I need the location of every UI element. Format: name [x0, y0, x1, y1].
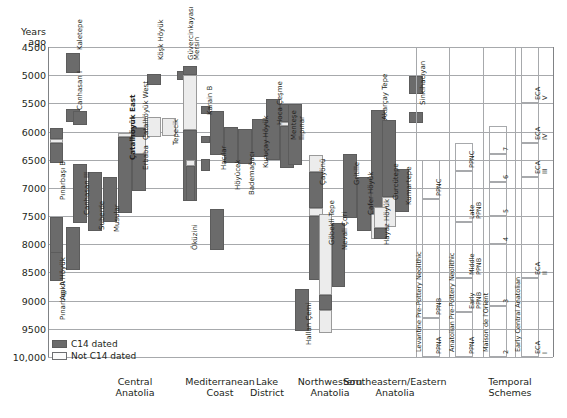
site-label: Suberde — [99, 201, 106, 230]
gridline — [48, 244, 553, 245]
site-bar-segment — [186, 160, 195, 167]
site-label: Pınarbaşı B — [60, 161, 67, 200]
plot-right-border — [553, 47, 554, 357]
site-label: Öküzini — [192, 224, 199, 250]
site-bar-segment — [73, 111, 87, 125]
region-label: CentralAnatolia — [90, 376, 180, 398]
site-label: Erbaba — [143, 145, 150, 170]
region-label-line2: Coast — [207, 387, 234, 398]
site-label: Musular — [114, 204, 121, 232]
site-label: Kaletepe — [77, 19, 84, 50]
site-label: Çayönü — [320, 159, 327, 185]
scheme-phase-label: ECA III — [535, 161, 549, 174]
chronology-chart: Years ago 450050005500600065007000750080… — [0, 0, 567, 418]
region-label-line2: Anatolia — [376, 387, 415, 398]
y-tick-label: 7500 — [0, 211, 46, 222]
site-bar-segment — [66, 227, 80, 269]
site-label: Höyücek — [235, 160, 242, 190]
site-label: Çatalhöyük West — [143, 81, 150, 140]
scheme-phase-label: ECA IV — [535, 127, 549, 140]
scheme-group-label: Early Central Anatolian — [515, 277, 522, 352]
gridline-top — [48, 47, 553, 48]
site-bar-segment — [50, 128, 63, 139]
scheme-phase-label: ECA I — [535, 341, 549, 354]
site-label: Mersin — [194, 37, 201, 60]
region-label-line2: Anatolia — [116, 387, 155, 398]
scheme-phase-label: ECA II — [535, 262, 549, 275]
site-bar-segment — [183, 75, 197, 130]
legend-label-noc14: Not C14 dated — [71, 352, 136, 361]
region-label-line2: District — [250, 387, 284, 398]
site-label: Köşk Höyük — [158, 19, 165, 60]
site-bar-segment — [186, 166, 195, 201]
site-label: Cafer Höyük — [368, 172, 375, 215]
scheme-phase-label: PPNA — [469, 337, 476, 354]
site-label: Hayaz Höyük — [384, 199, 391, 245]
scheme-phase-label: Middle PPNB — [469, 254, 483, 275]
plot-left-border — [48, 47, 49, 357]
site-label: Hacılar — [221, 146, 228, 170]
y-tick-label: 5500 — [0, 98, 46, 109]
scheme-group-label: Levantine Pre-Pottery Neolithic — [416, 251, 423, 352]
scheme-phase-label: Early PPNB — [469, 292, 483, 309]
site-bar-segment — [183, 66, 197, 75]
scheme-phase-label: 5 — [503, 209, 510, 213]
site-bar-segment — [201, 159, 210, 171]
site-label: Hoca Çeşme — [277, 81, 284, 125]
scheme-phase-label: Late PPNB — [469, 202, 483, 219]
region-label-line1: Lake — [256, 376, 278, 387]
scheme-phase-label: 7 — [503, 147, 510, 151]
scheme-phase-label: 6 — [503, 175, 510, 179]
y-tick-label: 6000 — [0, 127, 46, 138]
site-label: Gritille — [354, 162, 361, 185]
scheme-phase-label: ECA V — [535, 87, 549, 100]
site-label: Ilıpınar — [299, 116, 306, 140]
region-label-line1: Temporal — [488, 376, 532, 387]
site-label: Sinkihacıyan — [420, 61, 427, 105]
y-tick-label: 10,000 — [0, 352, 46, 363]
site-bar-segment — [66, 53, 80, 73]
y-tick-label: 6500 — [0, 155, 46, 166]
site-label: Canhasan I — [77, 71, 84, 110]
region-label-line2: Schemes — [488, 387, 531, 398]
scheme-phase-label: PPNC — [469, 151, 476, 168]
site-label: Tepecik — [173, 119, 180, 145]
site-label: Karain B — [207, 86, 214, 115]
y-tick-label: 8000 — [0, 239, 46, 250]
y-tick-label: 4500 — [0, 42, 46, 53]
site-bar-segment — [319, 310, 332, 334]
y-tick-label: 9000 — [0, 296, 46, 307]
site-label: Akarçay Tepe — [382, 74, 389, 120]
scheme-phase-label: PPNA — [436, 337, 443, 354]
legend-swatch-noc14 — [52, 352, 67, 360]
site-label: Menteşe — [291, 110, 298, 140]
scheme-phase-label: 2 — [503, 350, 510, 354]
scheme-phase-label: PPNB — [436, 297, 443, 314]
site-bar-segment — [210, 209, 224, 251]
site-bar-segment — [319, 295, 332, 310]
scheme-phase-label: 4 — [503, 237, 510, 241]
y-tick-label: 5000 — [0, 70, 46, 81]
site-label: Çatalhöyük East — [129, 95, 136, 161]
site-label: Gurcütepe — [393, 163, 400, 200]
scheme-phase-label: 3 — [503, 299, 510, 303]
y-tick-label: 8500 — [0, 267, 46, 278]
scheme-group-label: Anatolian Pre-Pottery Neolithic — [449, 253, 456, 352]
legend-label-c14: C14 dated — [71, 340, 118, 349]
scheme-phase-box — [489, 244, 507, 306]
region-label: LakeDistrict — [238, 376, 296, 398]
legend-swatch-c14 — [52, 340, 67, 348]
gridline — [48, 75, 553, 76]
site-label: Hallan Çemi — [306, 303, 313, 345]
region-label-line1: Southeastern/Eastern — [344, 376, 447, 387]
site-label: Nevali Çori — [342, 212, 349, 250]
scheme-phase-label: PPNC — [436, 179, 443, 196]
region-label-line1: Central — [118, 376, 153, 387]
site-label: Pınarbaşı A — [60, 281, 67, 320]
y-tick-label: 9500 — [0, 324, 46, 335]
region-label: TemporalSchemes — [470, 376, 550, 398]
region-label: Southeastern/EasternAnatolia — [330, 376, 460, 398]
site-label: Göbekli Tepe — [329, 200, 336, 245]
site-label: Kuruçay Höyük — [263, 115, 270, 168]
site-label: Bademağacı — [249, 152, 256, 195]
